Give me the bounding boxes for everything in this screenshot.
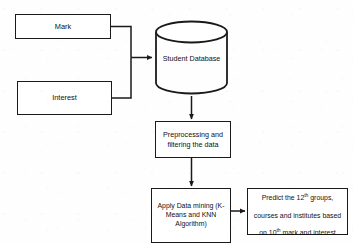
predict-line-3-rest: mark and interest bbox=[281, 229, 336, 236]
node-mark[interactable]: Mark bbox=[15, 14, 111, 39]
predict-line-1-text: Predict the 12 bbox=[262, 194, 305, 201]
node-data-mining-label: Apply Data mining (K- Means and KNN Algo… bbox=[154, 202, 227, 228]
predict-line-3-text: on 10 bbox=[259, 229, 276, 236]
edge-mark-to-database bbox=[111, 27, 131, 58]
node-student-database-label: Student Database bbox=[154, 53, 229, 62]
flowchart-canvas: Mark Interest Student Database Preproces… bbox=[0, 0, 353, 243]
node-data-mining[interactable]: Apply Data mining (K- Means and KNN Algo… bbox=[151, 188, 231, 243]
node-preprocessing[interactable]: Preprocessing and filtering the data bbox=[155, 121, 231, 158]
node-predict-result-label: Predict the 12th groups, courses and ins… bbox=[251, 185, 344, 238]
predict-line-2-text: courses and institutes based bbox=[254, 212, 341, 219]
node-student-database[interactable]: Student Database bbox=[154, 19, 229, 96]
edge-interest-to-database bbox=[112, 58, 131, 99]
node-predict-result[interactable]: Predict the 12th groups, courses and ins… bbox=[247, 188, 348, 235]
node-interest-label: Interest bbox=[49, 93, 80, 102]
predict-line-1-rest: groups, bbox=[308, 194, 333, 201]
node-mark-label: Mark bbox=[52, 22, 74, 31]
node-preprocessing-label: Preprocessing and filtering the data bbox=[160, 130, 226, 148]
node-interest[interactable]: Interest bbox=[17, 81, 112, 115]
